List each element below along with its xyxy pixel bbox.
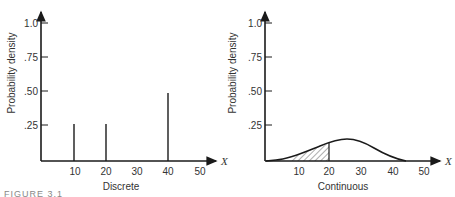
- x-ticks: 10 20 30 40 50: [293, 166, 430, 177]
- y-axis-title: Probability density: [227, 32, 238, 113]
- svg-text:10: 10: [69, 166, 81, 177]
- y-tick-label: .50: [24, 86, 38, 97]
- y-axis-title: Probability density: [6, 32, 17, 113]
- svg-text:30: 30: [131, 166, 143, 177]
- svg-text:20: 20: [100, 166, 112, 177]
- svg-text:40: 40: [387, 166, 399, 177]
- y-ticks: 1.0 .75 .50 .25: [248, 18, 272, 131]
- svg-text:50: 50: [194, 166, 206, 177]
- continuous-chart: 1.0 .75 .50 .25 10 20 30 40 50 X Probabi…: [227, 12, 453, 192]
- svg-text:10: 10: [293, 166, 305, 177]
- svg-text:50: 50: [418, 166, 430, 177]
- chart-subtitle-discrete: Discrete: [103, 181, 140, 192]
- shaded-probability-region: [290, 143, 329, 161]
- stems: [74, 93, 168, 161]
- y-tick-label: .75: [24, 52, 38, 63]
- figure-caption: FIGURE 3.1: [4, 190, 63, 197]
- figure-canvas: 1.0 .75 .50 .25 10 20 30 40 50 X Probabi…: [0, 0, 455, 197]
- y-tick-label: .25: [248, 120, 262, 131]
- y-tick-label: 1.0: [24, 18, 38, 29]
- svg-text:30: 30: [355, 166, 367, 177]
- density-curve: [266, 139, 406, 161]
- y-tick-label: .75: [248, 52, 262, 63]
- x-axis-letter: X: [220, 155, 229, 167]
- chart-subtitle-continuous: Continuous: [318, 181, 369, 192]
- svg-text:20: 20: [323, 166, 335, 177]
- y-ticks: 1.0 .75 .50 .25: [24, 18, 48, 131]
- x-axis-letter: X: [444, 155, 453, 167]
- y-tick-label: .25: [24, 120, 38, 131]
- x-ticks: 10 20 30 40 50: [69, 166, 206, 177]
- y-tick-label: 1.0: [248, 18, 262, 29]
- discrete-chart: 1.0 .75 .50 .25 10 20 30 40 50 X Probabi…: [6, 12, 229, 192]
- y-tick-label: .50: [248, 86, 262, 97]
- svg-text:40: 40: [162, 166, 174, 177]
